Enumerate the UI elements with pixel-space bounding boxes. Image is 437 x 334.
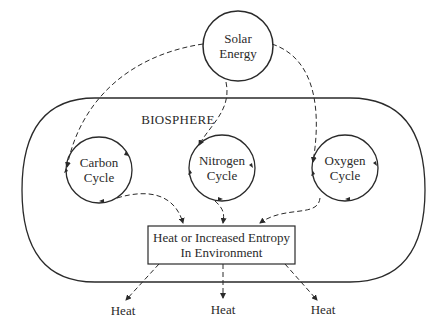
carbon-label-line1: Carbon xyxy=(64,155,134,170)
sink-label-line2: In Environment xyxy=(148,245,295,260)
oxygen-cycle-label: Oxygen Cycle xyxy=(310,153,380,183)
heat-output-center: Heat xyxy=(203,302,243,317)
oxygen-label-line1: Oxygen xyxy=(310,153,380,168)
nitrogen-label-line2: Cycle xyxy=(187,168,257,183)
solar-label-line2: Energy xyxy=(203,46,273,61)
carbon-label-line2: Cycle xyxy=(64,170,134,185)
carbon-cycle-label: Carbon Cycle xyxy=(64,155,134,185)
solar-to-carbon-arrow xyxy=(67,44,203,167)
solar-energy-label: Solar Energy xyxy=(203,31,273,61)
nitrogen-to-sink-arrow xyxy=(215,201,224,223)
solar-to-oxygen-arrow xyxy=(272,44,316,162)
biosphere-label: BIOSPHERE xyxy=(138,112,218,127)
heat-output-right: Heat xyxy=(303,302,343,317)
carbon-to-sink-arrow xyxy=(117,194,183,223)
heat-output-left: Heat xyxy=(103,303,143,318)
entropy-sink-label: Heat or Increased Entropy In Environment xyxy=(148,230,295,260)
nitrogen-label-line1: Nitrogen xyxy=(187,153,257,168)
solar-label-line1: Solar xyxy=(203,31,273,46)
oxygen-label-line2: Cycle xyxy=(310,168,380,183)
oxygen-to-sink-arrow xyxy=(260,198,320,223)
nitrogen-cycle-label: Nitrogen Cycle xyxy=(187,153,257,183)
sink-label-line1: Heat or Increased Entropy xyxy=(148,230,295,245)
